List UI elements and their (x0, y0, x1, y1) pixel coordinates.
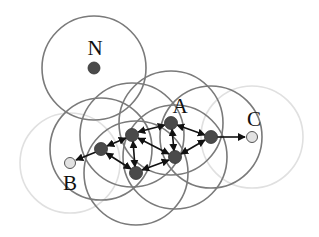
node-relay-5 (169, 151, 182, 164)
labels: N A C B (63, 36, 261, 195)
node-B (65, 158, 76, 169)
edge-A-n5 (172, 129, 174, 151)
node-A (165, 117, 178, 130)
node-relay-2 (126, 129, 139, 142)
label-C: C (247, 107, 261, 131)
label-B: B (63, 171, 77, 195)
label-N: N (87, 36, 102, 60)
label-A: A (172, 94, 188, 118)
edge-n4-n5 (142, 160, 169, 170)
network-diagram: N A C B (0, 0, 319, 237)
edge-n2-n5 (138, 138, 169, 154)
node-relay-4 (130, 167, 143, 180)
node-N (88, 62, 100, 74)
edge-n2-n4 (133, 141, 135, 167)
node-relay-1 (95, 143, 108, 156)
node-relay-right (205, 131, 218, 144)
edge-n1-n4 (106, 153, 131, 169)
node-C (247, 132, 258, 143)
